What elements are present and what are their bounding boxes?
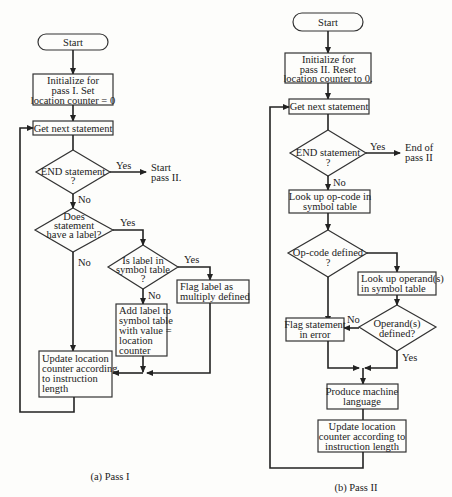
pass1-flowchart: Start Initialize for pass I. Set locatio…	[20, 34, 250, 483]
pass1-end-yes-label: Yes	[116, 160, 131, 171]
pass1-get-next-text: Get next statement	[34, 123, 113, 134]
pass2-produce-line2: language	[343, 396, 381, 407]
pass1-label-decision-line3: have a label?	[47, 229, 102, 240]
pass2-start-text: Start	[318, 17, 338, 28]
pass2-operands-no-label: No	[347, 314, 360, 325]
pass2-arrow-yes-merge	[365, 351, 397, 368]
pass2-arrow-error-merge	[328, 341, 359, 368]
pass2-flowchart: Start Initialize for pass II. Reset loca…	[270, 13, 444, 494]
pass1-in-table-no-label: No	[148, 290, 161, 301]
pass2-opcode-decision-line2: ?	[326, 257, 331, 268]
pass2-lookup-operands-line2: in symbol table	[361, 283, 426, 294]
pass1-update-line4: length	[42, 383, 69, 394]
pass1-add-label-line5: counter	[119, 345, 151, 356]
pass2-operands-decision-line2: defined?	[379, 328, 415, 339]
pass2-init-line3: location counter to 0.	[283, 73, 372, 84]
pass2-get-next-text: Get next statement	[290, 101, 369, 112]
pass2-flag-error-line2: in error	[299, 329, 331, 340]
pass1-in-table-yes-label: Yes	[184, 254, 199, 265]
pass1-end-decision-line2: ?	[71, 175, 76, 186]
pass1-flag-multiply-line2: multiply defined	[180, 291, 250, 302]
pass1-label-no-label: No	[78, 257, 91, 268]
pass2-lookup-opcode-line2: symbol table	[303, 201, 357, 212]
flowcharts: Start Initialize for pass I. Set locatio…	[0, 0, 452, 497]
pass1-caption: (a) Pass I	[90, 471, 130, 483]
pass1-in-table-line3: ?	[141, 273, 146, 284]
pass1-end-no-label: No	[78, 194, 91, 205]
pass1-arrow-label-yes	[113, 230, 143, 245]
pass2-end-yes-label: Yes	[370, 141, 385, 152]
pass2-end-no-label: No	[333, 177, 346, 188]
pass2-arrow-opcode-yes	[367, 253, 397, 272]
pass2-end-target-line2: pass II	[405, 152, 433, 163]
pass1-start-text: Start	[63, 37, 83, 48]
pass2-caption: (b) Pass II	[334, 482, 378, 494]
pass1-arrow-in-table-yes	[178, 267, 210, 280]
pass2-end-decision-line2: ?	[326, 157, 331, 168]
pass2-operands-yes-label: Yes	[402, 352, 417, 363]
pass1-init-line3: location counter = 0	[31, 95, 115, 106]
pass1-end-target-line2: pass II.	[151, 172, 181, 183]
pass2-update-line3: instruction length	[325, 441, 400, 452]
pass1-label-yes-label: Yes	[120, 217, 135, 228]
